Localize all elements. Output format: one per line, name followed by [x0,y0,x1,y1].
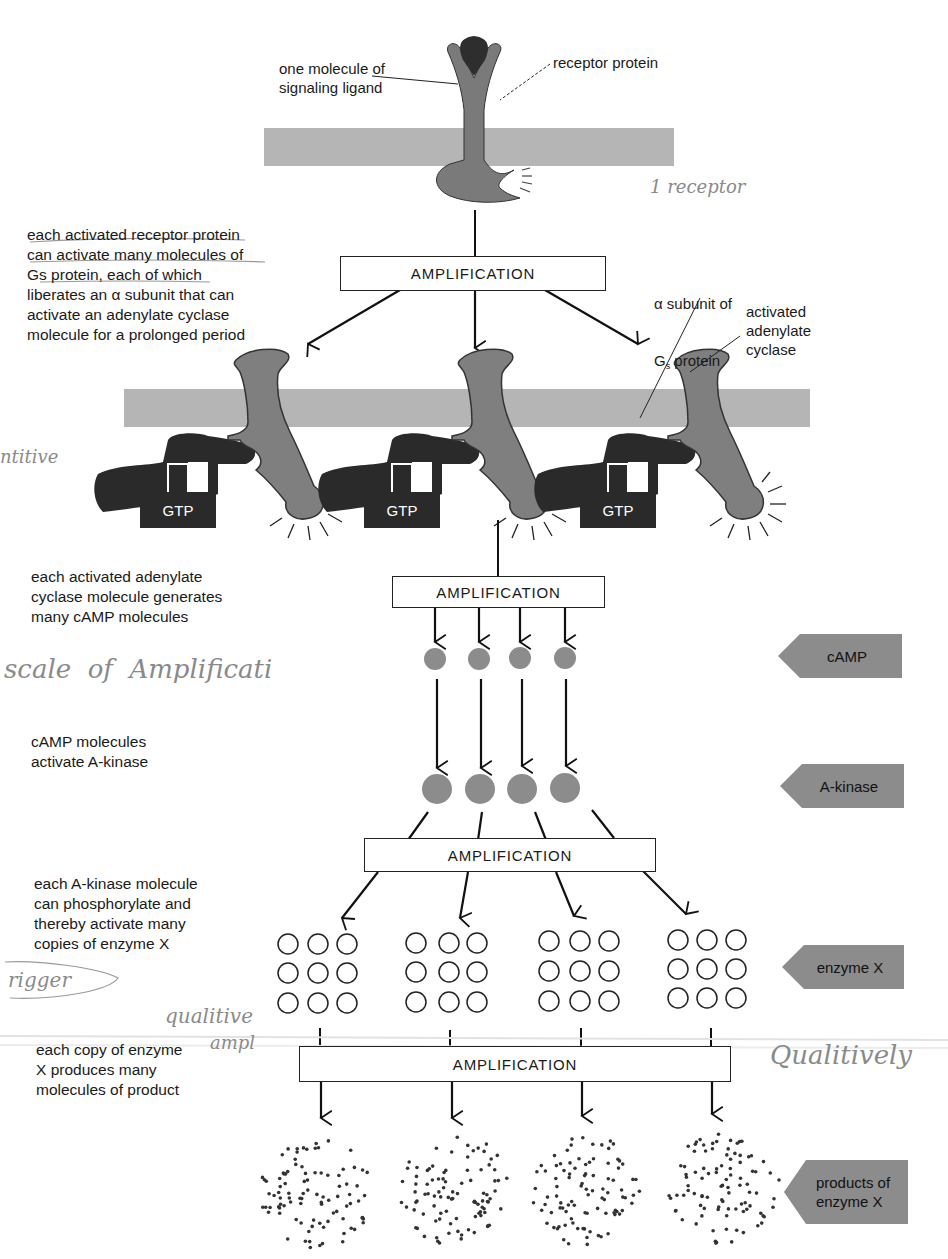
product-clusters [261,1132,781,1249]
step-description-enzyme: each copy of enzyme X produces many mole… [36,1040,182,1100]
tag-a-kinase: A-kinase [780,764,904,808]
step-description-kinase: each A-kinase molecule can phosphorylate… [34,874,198,954]
step-description-cyclase: each activated adenylate cyclase molecul… [31,567,222,627]
handwritten-note-qualitive: qualitive [165,1004,253,1028]
a-kinase-molecules [422,773,580,804]
camp-molecules [424,647,576,670]
alpha-subunit-label: α subunit of Gs protein [654,256,732,395]
alpha-label-line2: Gs protein [654,351,732,376]
amplification-box-2: AMPLIFICATION [392,576,605,608]
step-description-camp: cAMP molecules activate A-kinase [31,732,148,772]
activated-cyclase-label: activated adenylate cyclase [746,302,811,359]
handwritten-note-qualitively: Qualitively [770,1040,912,1070]
amplification-box-3: AMPLIFICATION [364,838,656,872]
receptor-label: receptor protein [553,53,658,72]
tag-products: products of enzyme X [784,1160,908,1224]
alpha-label-line1: α subunit of [654,294,732,313]
step-description-receptor: each activated receptor protein can acti… [27,225,245,345]
gtp-label-1: GTP [140,492,216,528]
tag-enzyme-x: enzyme X [782,945,904,989]
gtp-label-3: GTP [580,492,656,528]
handwritten-note-scale: scale of Amplificati [4,654,272,684]
amplification-box-1: AMPLIFICATION [340,256,606,291]
handwritten-note-ampl: ampl [210,1032,255,1053]
handwritten-note-receptor: 1 receptor [650,176,745,197]
handwritten-note-margin: ntitive [0,446,58,467]
ligand-label: one molecule of signaling ligand [279,59,385,97]
enzyme-x-groups [278,930,746,1013]
tag-camp: cAMP [778,634,902,678]
gtp-label-2: GTP [364,492,440,528]
amplification-box-4: AMPLIFICATION [299,1046,731,1082]
handwritten-note-trigger: rigger [8,968,71,992]
